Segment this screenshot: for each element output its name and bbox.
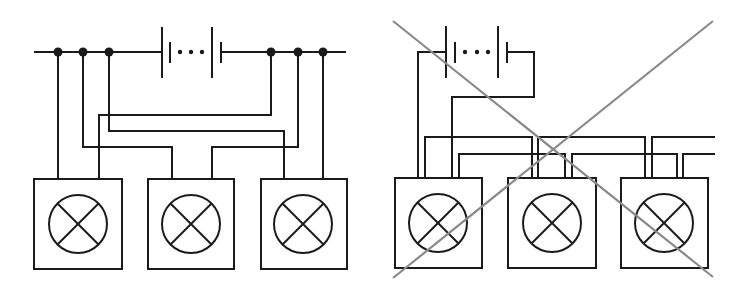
- junction-dot: [79, 48, 88, 57]
- junction-dot: [54, 48, 63, 57]
- lamp-3: [261, 179, 347, 269]
- lamp-1: [395, 178, 482, 268]
- circuit-diagram: [0, 0, 747, 291]
- wire: [425, 137, 532, 178]
- junction-dot: [294, 48, 303, 57]
- lamp-2: [508, 178, 596, 268]
- battery-ellipsis-dot: [200, 50, 204, 54]
- junction-dot: [319, 48, 328, 57]
- wire: [538, 137, 645, 178]
- battery-ellipsis-dot: [189, 50, 193, 54]
- wire: [418, 52, 446, 178]
- wire: [452, 52, 534, 178]
- lamp-1: [34, 179, 122, 269]
- junction-dot: [267, 48, 276, 57]
- wire: [459, 154, 565, 178]
- lamp-2: [148, 179, 234, 269]
- wire: [99, 52, 271, 179]
- junction-dot: [105, 48, 114, 57]
- parallel-circuit-panel: [34, 27, 347, 269]
- lamp-3: [621, 178, 708, 268]
- battery-ellipsis-dot: [463, 50, 467, 54]
- wire: [572, 154, 677, 178]
- battery-ellipsis-dot: [178, 50, 182, 54]
- battery-ellipsis-dot: [475, 50, 479, 54]
- crossed-out-circuit-panel: [393, 21, 714, 278]
- wire: [683, 154, 714, 178]
- battery-ellipsis-dot: [486, 50, 490, 54]
- battery-icon: [162, 27, 221, 78]
